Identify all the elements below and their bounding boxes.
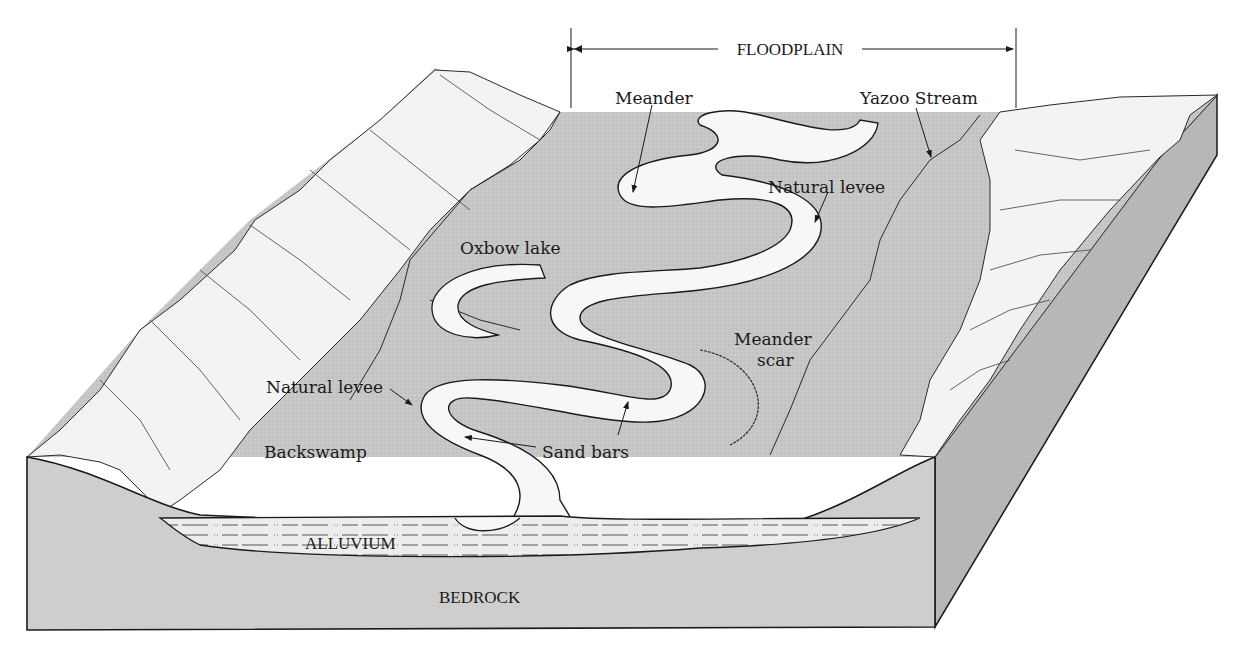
label-bedrock: BEDROCK bbox=[439, 588, 521, 607]
label-oxbow-lake: Oxbow lake bbox=[460, 238, 561, 258]
label-natural-levee-top: Natural levee bbox=[768, 177, 885, 197]
label-sand-bars: Sand bars bbox=[542, 442, 629, 462]
label-backswamp: Backswamp bbox=[264, 442, 367, 462]
label-meander: Meander bbox=[615, 88, 693, 108]
floodplain-block-diagram: FLOODPLAIN Meander Yazoo Stream Natural … bbox=[0, 0, 1239, 648]
label-natural-levee-left: Natural levee bbox=[266, 377, 383, 397]
label-yazoo-stream: Yazoo Stream bbox=[859, 88, 978, 108]
label-meander-scar-1: Meander bbox=[734, 329, 812, 349]
floodplain-label: FLOODPLAIN bbox=[737, 40, 844, 59]
label-alluvium: ALLUVIUM bbox=[305, 534, 396, 553]
label-meander-scar-2: scar bbox=[757, 350, 794, 370]
